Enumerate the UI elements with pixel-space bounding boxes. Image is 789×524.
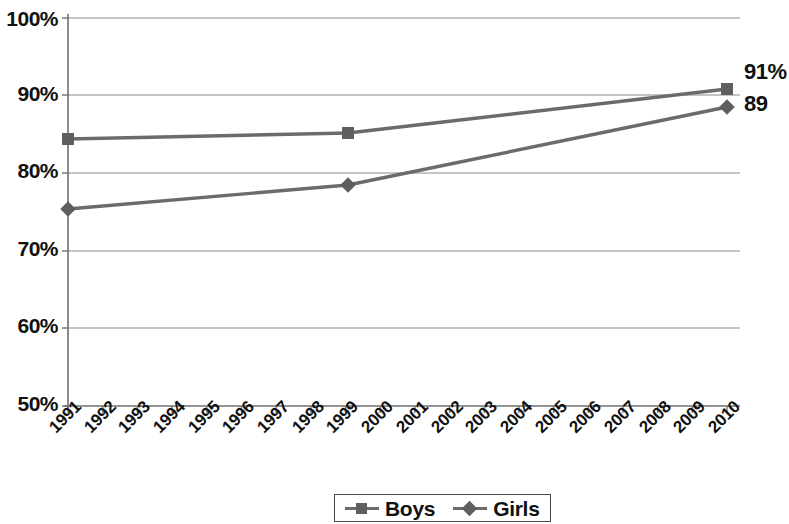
girls-end-value-label: 89 (744, 93, 767, 115)
series-boys (62, 83, 733, 145)
series-girls (60, 99, 735, 217)
girls-markers (60, 99, 735, 217)
square-marker-icon (345, 501, 379, 515)
legend-label-girls: Girls (493, 498, 539, 519)
x-axis-ticks (68, 406, 727, 413)
legend-item-boys[interactable]: Boys (345, 498, 435, 519)
diamond-marker-icon (453, 501, 487, 515)
legend-label-boys: Boys (385, 498, 435, 519)
boys-end-value-label: 91% (744, 61, 787, 83)
legend-item-girls[interactable]: Girls (453, 498, 539, 519)
plot-area (0, 0, 789, 524)
line-chart: 100% 90% 80% 70% 60% 50% (0, 0, 789, 524)
legend: Boys Girls (334, 494, 551, 522)
